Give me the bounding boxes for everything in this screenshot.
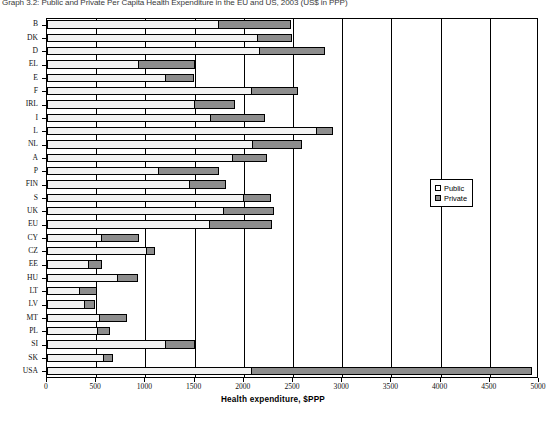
plot-area: Public Private [46, 18, 538, 378]
bar-segment-private [138, 60, 194, 68]
chart-container: Graph 3.2: Public and Private Per Capita… [0, 0, 546, 428]
y-axis-label-l: L [33, 127, 38, 135]
y-axis-label-cy: CY [27, 234, 38, 242]
bar-row [47, 232, 537, 245]
bar-segment-public [47, 47, 260, 55]
stacked-bar [47, 180, 226, 188]
x-axis-title: Health expenditure, $PPP [0, 395, 546, 404]
stacked-bar [47, 20, 291, 28]
bar-row [47, 72, 537, 85]
bar-row [47, 139, 537, 152]
bar-segment-private [218, 20, 291, 28]
bar-row [47, 32, 537, 45]
bar-segment-private [223, 207, 274, 215]
bar-segment-public [47, 300, 85, 308]
bar-segment-private [189, 180, 226, 188]
stacked-bar [47, 140, 302, 148]
stacked-bar [47, 74, 194, 82]
y-axis-label-nl: NL [28, 140, 38, 148]
stacked-bar [47, 60, 195, 68]
stacked-bar [47, 154, 267, 162]
stacked-bar [47, 114, 265, 122]
bar-segment-private [79, 287, 97, 295]
y-axis-label-eu: EU [28, 220, 38, 228]
y-axis-label-sk: SK [28, 354, 38, 362]
bar-segment-private [259, 47, 326, 55]
bar-row [47, 286, 537, 299]
y-axis-label-hu: HU [27, 274, 38, 282]
stacked-bar [47, 34, 292, 42]
bar-segment-public [47, 220, 210, 228]
bar-segment-public [47, 194, 244, 202]
y-axis-label-el: EL [29, 60, 38, 68]
bar-row [47, 272, 537, 285]
bar-segment-public [47, 127, 317, 135]
stacked-bar [47, 314, 127, 322]
x-axis-tick-labels: 0500100015002000250030003500400045005000 [0, 382, 546, 394]
x-axis-tick-label-4500: 4500 [481, 382, 496, 391]
bar-row [47, 312, 537, 325]
bar-segment-private [117, 274, 139, 282]
y-axis-label-p: P [34, 167, 38, 175]
bar-segment-private [97, 327, 110, 335]
bar-segment-public [47, 247, 147, 255]
bar-segment-public [47, 314, 100, 322]
bar-segment-private [194, 100, 235, 108]
stacked-bar [47, 274, 138, 282]
stacked-bar [47, 367, 532, 375]
y-axis-label-irl: IRL [26, 100, 38, 108]
bar-row [47, 246, 537, 259]
bar-segment-public [47, 140, 253, 148]
bar-segment-private [88, 260, 102, 268]
x-axis-tick-label-500: 500 [89, 382, 100, 391]
bar-row [47, 326, 537, 339]
bar-segment-public [47, 34, 258, 42]
stacked-bar [47, 220, 272, 228]
bar-row [47, 166, 537, 179]
chart-title: Graph 3.2: Public and Private Per Capita… [2, 0, 546, 7]
y-axis-label-f: F [34, 87, 38, 95]
bar-segment-public [47, 274, 118, 282]
stacked-bar [47, 300, 95, 308]
bar-segment-private [146, 247, 155, 255]
y-axis-label-cz: CZ [28, 247, 38, 255]
bar-segment-private [210, 114, 265, 122]
bar-segment-private [99, 314, 127, 322]
bar-segment-private [165, 340, 195, 348]
bar-segment-private [158, 167, 219, 175]
bar-segment-private [252, 140, 302, 148]
bar-segment-public [47, 367, 252, 375]
y-axis-label-usa: USA [23, 367, 38, 375]
x-axis-tick-label-2500: 2500 [284, 382, 299, 391]
bar-segment-private [209, 220, 272, 228]
bar-row [47, 112, 537, 125]
bar-segment-public [47, 74, 166, 82]
stacked-bar [47, 260, 102, 268]
y-axis-label-lv: LV [29, 300, 38, 308]
legend-label-private: Private [444, 194, 467, 203]
y-axis-label-uk: UK [27, 207, 38, 215]
bar-row [47, 299, 537, 312]
bar-row [47, 152, 537, 165]
bar-segment-private [101, 234, 139, 242]
x-axis-tick-label-4000: 4000 [432, 382, 447, 391]
x-axis-tick-label-3500: 3500 [383, 382, 398, 391]
bar-segment-public [47, 180, 190, 188]
bar-segment-public [47, 207, 224, 215]
bar-segment-public [47, 354, 104, 362]
bar-segment-private [257, 34, 292, 42]
stacked-bar [47, 194, 271, 202]
bar-segment-public [47, 60, 139, 68]
bar-segment-public [47, 327, 98, 335]
bar-row [47, 206, 537, 219]
y-axis-label-lt: LT [29, 287, 38, 295]
bar-segment-private [251, 367, 532, 375]
x-axis-tick-label-0: 0 [44, 382, 48, 391]
bar-segment-public [47, 87, 252, 95]
stacked-bar [47, 47, 325, 55]
y-axis-label-d: D [33, 47, 38, 55]
bar-segment-public [47, 114, 211, 122]
bar-row [47, 259, 537, 272]
bar-segment-public [47, 167, 159, 175]
stacked-bar [47, 207, 274, 215]
